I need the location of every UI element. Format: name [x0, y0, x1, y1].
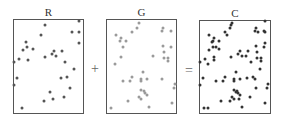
dot — [21, 107, 24, 110]
dot — [26, 46, 29, 49]
dot — [63, 96, 66, 99]
dot — [246, 77, 249, 80]
dot — [256, 57, 259, 60]
dot — [213, 37, 216, 40]
dot — [224, 76, 227, 79]
dot — [264, 42, 267, 45]
dot — [78, 31, 81, 34]
dot — [263, 46, 266, 49]
dot — [152, 55, 155, 58]
dot — [207, 63, 210, 66]
dot — [167, 60, 170, 63]
dot — [208, 34, 211, 37]
dot — [73, 68, 76, 71]
dot — [173, 87, 176, 90]
dot — [162, 45, 165, 48]
dot — [131, 76, 134, 79]
dot — [51, 53, 54, 56]
dot — [213, 56, 216, 59]
dot — [238, 98, 241, 101]
dot — [140, 80, 143, 83]
dot — [122, 46, 125, 49]
dot — [78, 20, 81, 23]
dot — [250, 61, 253, 64]
dot — [61, 50, 64, 53]
dot — [115, 34, 118, 37]
dot — [170, 46, 173, 49]
dot — [167, 57, 170, 60]
dot — [254, 30, 257, 33]
dot — [257, 31, 260, 34]
dot — [260, 57, 263, 60]
dot — [264, 20, 267, 23]
dot — [229, 27, 232, 30]
dot — [224, 31, 227, 34]
dot — [120, 37, 123, 40]
dot — [255, 87, 258, 90]
dot — [229, 100, 232, 103]
dot — [64, 61, 67, 64]
panel-c-dots — [199, 20, 270, 110]
rgc-diagram — [0, 0, 285, 124]
dot — [259, 68, 262, 71]
dot — [220, 100, 223, 103]
dot — [66, 76, 69, 79]
dot — [13, 84, 16, 87]
dot — [202, 77, 205, 80]
dot — [110, 107, 113, 110]
dot — [255, 27, 258, 30]
dot — [231, 22, 234, 25]
dot — [212, 40, 215, 43]
panel-r-dots — [13, 20, 81, 110]
dot — [241, 55, 244, 58]
dot — [233, 80, 236, 83]
dot — [27, 59, 30, 62]
dot — [162, 27, 165, 30]
panel-g-dots — [110, 22, 177, 110]
dot — [146, 94, 149, 97]
dot — [140, 89, 143, 92]
dot — [122, 80, 125, 83]
dot — [120, 56, 123, 59]
dot — [161, 78, 164, 81]
dot — [230, 56, 233, 59]
dot — [129, 80, 132, 83]
dot — [203, 107, 206, 110]
dot — [222, 80, 225, 83]
dot — [40, 34, 43, 37]
dot — [215, 46, 218, 49]
dot — [263, 30, 266, 33]
dot — [49, 91, 52, 94]
dot — [204, 58, 207, 61]
dot — [71, 31, 74, 34]
dot — [233, 89, 236, 92]
dot — [127, 100, 130, 103]
dot — [163, 51, 166, 54]
dot — [78, 42, 81, 45]
dot — [267, 83, 270, 86]
dot — [43, 100, 46, 103]
dot — [25, 41, 28, 44]
dot — [266, 87, 269, 90]
dot — [18, 58, 21, 61]
dot — [245, 55, 248, 58]
dot — [256, 51, 259, 54]
dot — [142, 71, 145, 74]
dot — [69, 87, 72, 90]
dot — [44, 56, 47, 59]
dot — [174, 83, 177, 86]
dot — [247, 50, 250, 53]
dot — [208, 49, 211, 52]
dot — [239, 94, 242, 97]
dot — [212, 46, 215, 49]
dot — [249, 96, 252, 99]
dot — [136, 27, 139, 30]
dot — [237, 53, 240, 56]
dot — [215, 80, 218, 83]
dot — [239, 50, 242, 53]
dot — [131, 31, 134, 34]
dot — [148, 106, 151, 109]
dot — [207, 107, 210, 110]
dot — [53, 50, 56, 53]
dot — [264, 102, 267, 105]
